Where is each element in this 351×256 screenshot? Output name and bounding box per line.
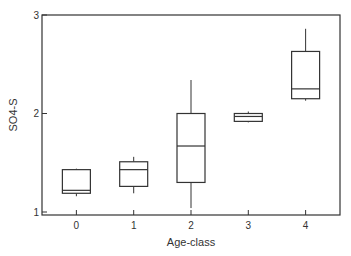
y-axis-label: SO4-S <box>7 98 19 131</box>
y-tick-label: 2 <box>33 108 39 119</box>
iqr-box <box>234 114 262 122</box>
x-tick-label: 3 <box>246 220 252 231</box>
box-2 <box>177 80 205 208</box>
y-axis: 123 <box>33 10 47 218</box>
x-tick-label: 1 <box>131 220 137 231</box>
y-tick-label: 3 <box>33 10 39 21</box>
box-plot-chart: 123 01234 Age-class SO4-S <box>0 0 351 256</box>
x-tick-label: 4 <box>303 220 309 231</box>
x-axis-label: Age-class <box>167 236 216 248</box>
x-axis: 01234 <box>74 210 309 231</box>
box-1 <box>120 157 148 193</box>
boxes <box>62 29 319 208</box>
y-tick-label: 1 <box>33 207 39 218</box>
iqr-box <box>120 162 148 187</box>
box-0 <box>62 169 90 197</box>
x-tick-label: 0 <box>74 220 80 231</box>
iqr-box <box>177 114 205 183</box>
box-3 <box>234 112 262 123</box>
iqr-box <box>292 51 320 98</box>
x-tick-label: 2 <box>188 220 194 231</box>
box-4 <box>292 29 320 101</box>
